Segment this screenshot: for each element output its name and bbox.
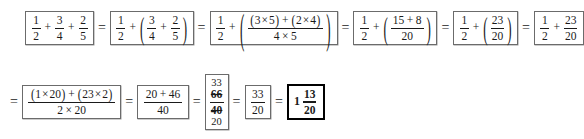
numerator: 1: [361, 14, 369, 26]
whole-part: 1: [294, 94, 302, 109]
denominator: 20: [564, 30, 578, 42]
step-2-expression: 1 2 + ( 3 4 + 2 5 ): [115, 14, 189, 42]
times-sign: ×: [280, 30, 292, 42]
left-parenthesis: (: [382, 13, 389, 44]
numerator: 23: [491, 14, 505, 26]
plus-sign: +: [280, 14, 292, 26]
step-8-expression: 20+46 40: [142, 88, 184, 116]
step-5-box: 1 2 + ( 23 20 ): [453, 11, 518, 45]
operand: 20: [50, 88, 62, 100]
fraction-three-fourths: 3 4: [146, 14, 158, 42]
fraction-bar: [391, 28, 424, 29]
sum-fraction: 20+46 40: [142, 88, 184, 116]
solution-row-1: 1 2 + 3 4 + 2 5 =: [25, 4, 584, 52]
equals-sign-4: =: [437, 21, 453, 35]
step-5-expression: 1 2 + ( 23 20 ): [458, 14, 513, 42]
cancelled-denominator: 40: [211, 104, 223, 116]
numerator: 1: [217, 14, 225, 26]
fraction-bar: [171, 28, 180, 29]
final-answer-box: 1 13 20: [287, 84, 325, 120]
denominator: 2×20: [55, 104, 88, 116]
fraction-one-half: 1 2: [358, 14, 370, 42]
fraction-thirtythree-twentieths: 33 20: [250, 88, 267, 116]
numerator: 3: [148, 14, 156, 26]
cancelled-numerator: 66: [211, 88, 223, 100]
denominator: 5: [171, 30, 179, 42]
denominator: 20: [251, 104, 265, 116]
times-sign: ×: [63, 104, 75, 116]
numerator: 3: [56, 14, 64, 26]
reduced-denominator: 20: [211, 116, 222, 127]
step-1-box: 1 2 + 3 4 + 2 5: [25, 11, 94, 45]
plus-sign: +: [42, 22, 54, 34]
fraction-bar: [491, 28, 505, 29]
cross-multiplication-fraction: (1×20)+(23×2) 2×20: [27, 88, 116, 116]
numerator: 20+46: [144, 88, 183, 100]
numerator: 2: [79, 14, 87, 26]
step-10-box: 33 20: [245, 85, 272, 119]
fraction-bar: [248, 28, 323, 29]
numerator: 1: [32, 14, 40, 26]
equals-sign-9: =: [229, 95, 245, 109]
step-8-box: 20+46 40: [137, 85, 189, 119]
fraction-one-half: 1 2: [215, 14, 227, 42]
fraction-bar: [144, 102, 183, 103]
left-parenthesis: (: [77, 88, 82, 102]
fraction-bar: [210, 102, 224, 103]
plus-sign: +: [66, 22, 78, 34]
denominator: 2: [117, 30, 125, 42]
plus-sign: +: [370, 22, 382, 34]
right-parenthesis: ): [425, 13, 432, 44]
equals-sign-10: =: [271, 95, 287, 109]
right-parenthesis: ): [108, 88, 113, 102]
times-sign: ×: [94, 88, 103, 100]
plus-sign: +: [158, 22, 170, 34]
step-3-expression: 1 2 + ( (3×5)+(2×4) 4×5 ): [215, 14, 333, 42]
step-4-expression: 1 2 + ( 15+8 20 ): [358, 14, 432, 42]
operand: 5: [291, 30, 297, 42]
operand: 46: [169, 88, 181, 100]
fraction-three-fourths: 3 4: [54, 14, 66, 42]
numerator: 15+8: [391, 14, 424, 26]
denominator: 20: [303, 104, 317, 116]
cancellation-stack: 33 66 40 20: [210, 77, 224, 126]
sum-fraction: 15+8 20: [389, 14, 425, 42]
mixed-number: 1 13 20: [294, 88, 318, 116]
fractional-part: 13 20: [301, 88, 318, 116]
equals-sign-6: =: [6, 95, 22, 109]
denominator: 4×5: [272, 30, 299, 42]
times-sign: ×: [260, 14, 269, 26]
operand: 8: [416, 14, 422, 26]
reduced-numerator: 33: [211, 77, 222, 88]
numerator: 33: [251, 88, 265, 100]
fraction-twentythree-twentieths: 23 20: [489, 14, 506, 42]
fraction-bar: [147, 28, 156, 29]
fraction-bar: [32, 28, 41, 29]
right-parenthesis: ): [181, 13, 188, 44]
denominator: 20: [491, 30, 505, 42]
equals-sign-1: =: [94, 21, 110, 35]
right-parenthesis: ): [61, 88, 66, 102]
fraction-bar: [540, 28, 549, 29]
step-7-expression: (1×20)+(23×2) 2×20: [27, 88, 116, 116]
equals-sign-3: =: [338, 21, 354, 35]
fraction-one-half: 1 2: [115, 14, 127, 42]
fraction-two-fifths: 2 5: [77, 14, 89, 42]
operand: 15: [393, 14, 405, 26]
operand: 20: [146, 88, 158, 100]
step-4-box: 1 2 + ( 15+8 20 ): [353, 11, 437, 45]
right-parenthesis: ): [316, 14, 321, 28]
step-1-expression: 1 2 + 3 4 + 2 5: [30, 14, 89, 42]
numerator: 1: [460, 14, 468, 26]
denominator: 2: [217, 30, 225, 42]
plus-sign: +: [404, 14, 416, 26]
denominator: 2: [361, 30, 369, 42]
step-3-box: 1 2 + ( (3×5)+(2×4) 4×5 ): [210, 11, 338, 45]
step-9-box: 33 66 40 20: [205, 74, 229, 129]
numerator: (3×5)+(2×4): [248, 14, 323, 27]
fraction-bar: [564, 28, 578, 29]
numerator: 13: [303, 88, 317, 100]
left-parenthesis: (: [138, 13, 145, 44]
equals-sign-5: =: [518, 21, 534, 35]
